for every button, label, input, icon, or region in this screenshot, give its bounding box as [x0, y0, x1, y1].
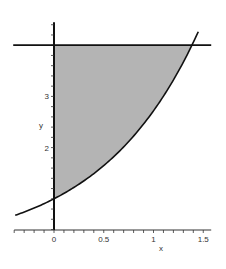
x-tick-label: 1 [151, 235, 156, 244]
x-tick-label: 1.5 [198, 235, 210, 244]
y-tick-label: 3 [45, 92, 50, 101]
x-tick-label: 0 [52, 235, 57, 244]
y-tick-label: 2 [45, 144, 50, 153]
x-axis: 00.511.5 [14, 230, 211, 244]
shaded-region [54, 45, 192, 199]
chart: 00.511.5 23 x y [0, 0, 226, 269]
x-tick-label: 0.5 [98, 235, 110, 244]
x-axis-label: x [159, 244, 163, 253]
y-axis-label: y [39, 121, 43, 130]
